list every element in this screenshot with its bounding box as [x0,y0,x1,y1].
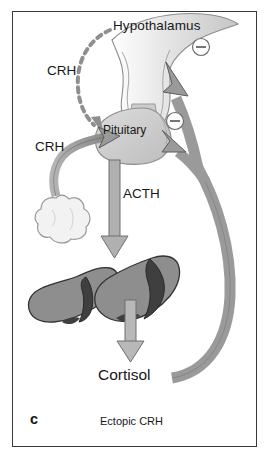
ectopic-crh-diagram: Hypothalamus CRH CRH Pituitary ACTH Cort… [0,0,270,460]
adrenal-gland-right [95,256,180,322]
pituitary-label: Pituitary [103,123,146,137]
acth-label: ACTH [123,186,160,201]
acth-arrow [101,160,128,258]
diagram-canvas [0,0,270,460]
cortisol-feedback-loop [162,62,230,378]
pituitary-inhibition-sign [167,113,184,130]
crh-ectopic-label: CRH [35,139,64,154]
panel-letter: c [30,411,38,427]
crh-hypothalamic-label: CRH [47,63,76,78]
figure-caption: Ectopic CRH [100,415,163,427]
cortisol-label: Cortisol [98,366,151,384]
hypothalamus-label: Hypothalamus [113,18,201,33]
ectopic-tumor-shape [35,195,90,243]
hypothalamus-inhibition-sign [193,39,210,56]
